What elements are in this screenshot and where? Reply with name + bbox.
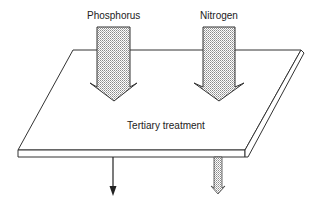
tertiary-treatment-diagram: Phosphorus Nitrogen Tertiary treatment xyxy=(0,0,317,205)
nitrogen-label: Nitrogen xyxy=(196,11,242,21)
tertiary-treatment-label: Tertiary treatment xyxy=(121,121,211,131)
thin-output-arrow-icon xyxy=(110,157,117,196)
dotted-output-arrow-icon xyxy=(211,157,225,194)
treatment-slab xyxy=(18,50,304,157)
diagram-graphic xyxy=(0,0,317,205)
phosphorus-label: Phosphorus xyxy=(87,11,139,21)
